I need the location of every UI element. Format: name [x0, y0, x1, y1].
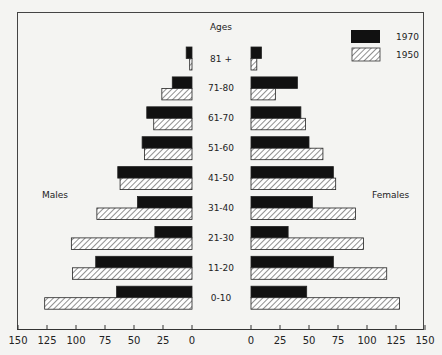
legend-swatch-1950	[352, 48, 380, 61]
x-tick-label-right: 100	[357, 335, 376, 346]
axes-group: 15012510075502500255075100125150	[8, 325, 434, 346]
legend-label-1950: 1950	[396, 50, 419, 60]
bar-male-1970-61-70	[147, 107, 192, 119]
bar-male-1970-0-10	[117, 286, 192, 298]
x-tick-label-left: 50	[128, 335, 141, 346]
x-tick-label-left: 150	[8, 335, 27, 346]
bar-male-1950-81	[190, 59, 192, 71]
x-tick-label-left: 75	[99, 335, 112, 346]
age-group-label: 41-50	[208, 173, 234, 183]
age-group-label: 71-80	[208, 83, 234, 93]
age-group-label: 11-20	[208, 263, 234, 273]
bar-male-1970-31-40	[137, 197, 192, 209]
bar-male-1970-81	[186, 47, 192, 59]
bar-female-1950-61-70	[251, 118, 306, 130]
bars-group: 81 +71-8061-7051-6041-5031-4021-3011-200…	[45, 47, 400, 309]
x-tick-label-left: 25	[157, 335, 170, 346]
bar-female-1970-21-30	[251, 226, 288, 238]
bar-male-1970-41-50	[118, 167, 192, 179]
bar-male-1950-0-10	[45, 298, 192, 310]
x-tick-label-right: 75	[332, 335, 345, 346]
age-group-label: 0-10	[211, 293, 232, 303]
legend: 1970 1950	[351, 30, 419, 61]
bar-female-1950-31-40	[251, 208, 355, 220]
x-tick-label-left: 100	[66, 335, 85, 346]
bar-female-1950-0-10	[251, 298, 399, 310]
bar-female-1970-51-60	[251, 137, 309, 149]
bar-male-1970-21-30	[155, 226, 192, 238]
legend-swatch-1970	[351, 30, 380, 43]
bar-male-1950-31-40	[97, 208, 192, 220]
population-pyramid-chart: 81 +71-8061-7051-6041-5031-4021-3011-200…	[0, 0, 442, 355]
x-tick-label-right: 25	[274, 335, 287, 346]
bar-female-1970-11-20	[251, 256, 333, 268]
bar-male-1950-51-60	[144, 148, 192, 160]
bar-female-1970-0-10	[251, 286, 307, 298]
bar-male-1970-11-20	[96, 256, 192, 268]
bar-female-1970-71-80	[251, 77, 297, 89]
males-label: Males	[42, 190, 68, 200]
age-group-label: 61-70	[208, 113, 234, 123]
age-group-label: 51-60	[208, 143, 234, 153]
age-group-label: 81 +	[210, 54, 232, 64]
age-group-label: 21-30	[208, 233, 234, 243]
bar-female-1970-61-70	[251, 107, 301, 119]
bar-male-1950-61-70	[154, 118, 192, 130]
x-tick-label-right: 150	[415, 335, 434, 346]
bar-male-1950-11-20	[73, 268, 192, 280]
bar-male-1970-51-60	[142, 137, 192, 149]
bar-female-1950-51-60	[251, 148, 323, 160]
bar-female-1950-71-80	[251, 88, 275, 100]
x-tick-label-right: 125	[386, 335, 405, 346]
bar-female-1950-21-30	[251, 238, 364, 250]
bar-female-1950-41-50	[251, 178, 336, 190]
bar-male-1950-41-50	[120, 178, 192, 190]
x-tick-label-left: 0	[189, 335, 195, 346]
age-group-label: 31-40	[208, 203, 234, 213]
x-tick-label-right: 50	[303, 335, 316, 346]
bar-female-1950-11-20	[251, 268, 387, 280]
legend-label-1970: 1970	[396, 32, 419, 42]
bar-female-1950-81	[251, 59, 257, 71]
bar-male-1950-21-30	[71, 238, 192, 250]
females-label: Females	[372, 190, 410, 200]
bar-female-1970-31-40	[251, 197, 312, 209]
bar-male-1950-71-80	[162, 88, 192, 100]
bar-female-1970-41-50	[251, 167, 333, 179]
bar-female-1970-81	[251, 47, 261, 59]
x-tick-label-left: 125	[37, 335, 56, 346]
ages-header: Ages	[210, 22, 232, 32]
bar-male-1970-71-80	[172, 77, 192, 89]
x-tick-label-right: 0	[248, 335, 254, 346]
